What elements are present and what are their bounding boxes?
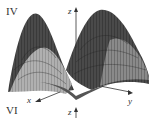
surface-plot	[0, 0, 149, 118]
x-axis-label: x	[27, 95, 31, 105]
vi-z-axis-arrow	[74, 107, 78, 112]
y-axis-arrow	[128, 90, 133, 95]
z-axis-label: z	[68, 6, 72, 16]
x-axis-arrow	[35, 98, 41, 102]
y-axis	[100, 86, 130, 92]
y-axis-label: y	[128, 96, 132, 106]
panel-label-iv: IV	[6, 5, 18, 17]
z-axis-arrow	[74, 7, 78, 12]
panel-label-vi: VI	[6, 104, 18, 116]
x-axis	[38, 92, 60, 101]
vi-z-axis-label: z	[68, 107, 72, 117]
